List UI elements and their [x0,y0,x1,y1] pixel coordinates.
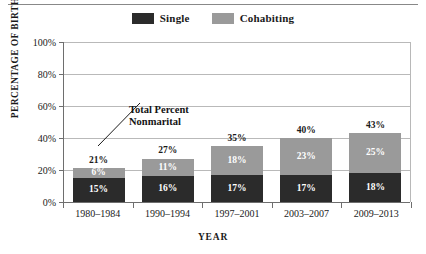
bar-segment-single[interactable]: 17% [211,175,263,202]
bar-segment-label-single: 17% [228,184,247,194]
bar-total-label: 21% [89,156,108,166]
stacked-bar[interactable]: 21%6%15% [73,168,125,202]
annotation-line-2: Nonmarital [129,116,189,128]
y-tick-label-40: 40% [38,133,56,144]
legend-swatch-cohabiting [212,13,234,24]
bar-segment-label-cohabiting: 6% [91,168,105,178]
bar-segment-single[interactable]: 16% [142,176,194,202]
bar-segment-label-single: 15% [89,185,108,195]
legend-item-cohabiting: Cohabiting [212,13,295,24]
x-axis-category-label: 1980–1984 [63,208,133,219]
chart-legend: Single Cohabiting [0,13,426,24]
bar-total-label: 27% [158,146,177,156]
bar-segment-label-single: 17% [297,184,316,194]
annotation-line-1: Total Percent [129,104,189,116]
bar-segment-single[interactable]: 18% [349,173,401,202]
bar-total-label: 35% [228,134,247,144]
legend-label-single: Single [160,13,190,24]
legend-swatch-single [132,13,154,24]
bar-segment-cohabiting[interactable]: 23% [280,138,332,175]
stacked-bar[interactable]: 43%25%18% [349,133,401,202]
x-axis-category-labels: 1980–19841990–19941997–20012003–20072009… [63,208,411,219]
stacked-bar[interactable]: 40%23%17% [280,138,332,202]
y-tick-label-0: 0% [43,197,56,208]
x-axis-category-label: 2003–2007 [272,208,342,219]
bar-segment-single[interactable]: 17% [280,175,332,202]
legend-item-single: Single [132,13,190,24]
y-axis-title: PERCENTAGE OF BIRTHS [10,0,20,140]
bar-slot: 40%23%17% [272,42,341,202]
plot-frame: 0%20%40%60%80%100% 21%6%15%27%11%16%35%1… [63,42,411,202]
bar-segment-cohabiting[interactable]: 11% [142,159,194,177]
bar-slot: 43%25%18% [341,42,410,202]
bar-slot: 21%6%15% [64,42,133,202]
bar-segment-label-cohabiting: 25% [366,148,385,158]
bar-segment-label-cohabiting: 11% [159,163,177,173]
x-axis-title: YEAR [0,232,426,242]
plot-area: 0%20%40%60%80%100% 21%6%15%27%11%16%35%1… [63,42,411,202]
stacked-bar[interactable]: 27%11%16% [142,159,194,202]
y-tick-label-20: 20% [38,165,56,176]
chart-figure: Single Cohabiting PERCENTAGE OF BIRTHS 0… [0,0,426,254]
bar-segment-label-single: 18% [366,183,385,193]
y-tick-label-60: 60% [38,101,56,112]
x-tick [411,202,412,208]
bar-segment-cohabiting[interactable]: 18% [211,146,263,175]
bar-slot: 35%18%17% [202,42,271,202]
x-axis-category-label: 1997–2001 [202,208,272,219]
bar-total-label: 40% [297,126,316,136]
x-axis-category-label: 1990–1994 [133,208,203,219]
legend-label-cohabiting: Cohabiting [240,13,295,24]
top-divider-rule [8,4,418,5]
y-tick-label-80: 80% [38,69,56,80]
x-axis-category-label: 2009–2013 [341,208,411,219]
bar-segment-cohabiting[interactable]: 25% [349,133,401,173]
annotation-total-percent-nonmarital: Total Percent Nonmarital [129,104,189,129]
bar-group: 21%6%15%27%11%16%35%18%17%40%23%17%43%25… [64,42,410,202]
stacked-bar[interactable]: 35%18%17% [211,146,263,202]
bar-segment-label-cohabiting: 18% [228,156,247,166]
bar-segment-cohabiting[interactable]: 6% [73,168,125,178]
bar-segment-label-cohabiting: 23% [297,152,316,162]
bar-total-label: 43% [366,121,385,131]
y-tick-label-100: 100% [33,37,56,48]
bar-segment-single[interactable]: 15% [73,178,125,202]
bar-segment-label-single: 16% [158,184,177,194]
